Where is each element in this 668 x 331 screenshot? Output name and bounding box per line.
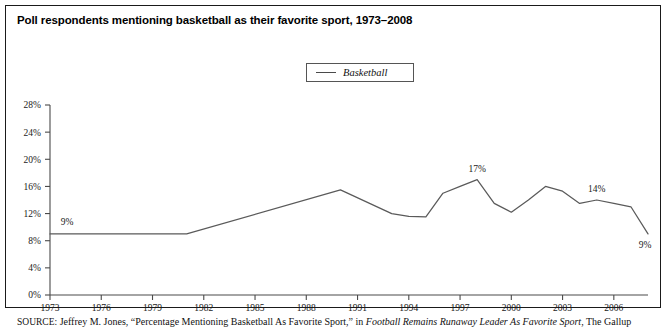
x-axis-tick-label: 1979 [143, 303, 162, 313]
series-line-basketball [50, 180, 648, 234]
x-axis-tick-label: 1982 [194, 303, 213, 313]
y-axis-tick-label: 24% [24, 128, 42, 138]
y-axis-tick-label: 28% [24, 100, 42, 110]
x-axis-tick-label: 1997 [451, 303, 470, 313]
x-axis-tick-label: 1988 [297, 303, 316, 313]
source-text-part2: , The Gallup [581, 316, 631, 327]
data-series-group [50, 180, 648, 234]
x-axis-tick-label: 2000 [502, 303, 521, 313]
x-axis-tick-label: 2006 [604, 303, 623, 313]
line-chart-plot: 0%4%8%12%16%20%24%28% 197319761979198219… [0, 0, 668, 331]
y-axis-tick-label: 4% [28, 263, 41, 273]
data-annotations-group: 9%17%14%9% [61, 164, 652, 250]
x-axis-tick-label: 1976 [92, 303, 111, 313]
y-axis-tick-label: 16% [24, 182, 42, 192]
source-text-part1: Jeffrey M. Jones, “Percentage Mentioning… [57, 316, 366, 327]
y-axis-tick-label: 20% [24, 155, 42, 165]
source-publication-title: Football Remains Runaway Leader As Favor… [366, 316, 581, 327]
x-axis-tick-label: 2003 [553, 303, 572, 313]
data-point-label: 17% [468, 164, 486, 174]
data-point-label: 9% [61, 217, 74, 227]
data-point-label: 14% [588, 184, 606, 194]
data-point-label: 9% [639, 240, 652, 250]
y-axis-tick-label: 8% [28, 236, 41, 246]
x-axis-tick-label: 1991 [348, 303, 367, 313]
figure-container: Poll respondents mentioning basketball a… [0, 0, 668, 331]
x-axis: 1973197619791982198519881991199419972000… [41, 295, 649, 313]
y-axis: 0%4%8%12%16%20%24%28% [24, 100, 50, 300]
x-axis-tick-label: 1985 [246, 303, 265, 313]
x-axis-tick-label: 1994 [399, 303, 418, 313]
x-axis-tick-label: 1973 [41, 303, 60, 313]
y-axis-tick-label: 0% [28, 290, 41, 300]
source-note: SOURCE: Jeffrey M. Jones, “Percentage Me… [17, 316, 631, 327]
source-kicker: SOURCE: [17, 317, 57, 327]
y-axis-tick-label: 12% [24, 209, 42, 219]
